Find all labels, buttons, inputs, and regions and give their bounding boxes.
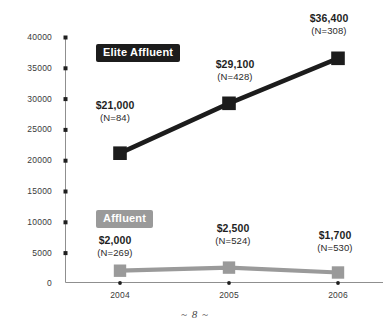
page-number-marker: ~ 8 ~: [0, 308, 390, 320]
y-tick-label-0: 0: [6, 278, 52, 288]
elite-point-label-2006: $36,400 (N=308): [274, 12, 384, 37]
series-affluent: [114, 261, 344, 278]
legend-tag-affluent: Affluent: [96, 210, 153, 228]
x-tick-label-2004: 2004: [90, 290, 150, 300]
y-tick-label-5000: 5000: [6, 248, 52, 258]
affluent-value-2005: $2,500: [178, 222, 288, 235]
x-tick-label-2006: 2006: [308, 290, 368, 300]
affluent-value-2004: $2,000: [60, 234, 170, 247]
elite-marker-2005: [222, 97, 236, 111]
y-tick-label-35000: 35000: [6, 63, 52, 73]
elite-value-2004: $21,000: [60, 99, 170, 112]
affluent-point-label-2004: $2,000 (N=269): [60, 234, 170, 259]
affluent-point-label-2005: $2,500 (N=524): [178, 222, 288, 247]
y-tick-label-25000: 25000: [6, 124, 52, 134]
affluent-point-label-2006: $1,700 (N=530): [280, 229, 390, 254]
elite-count-2004: (N=84): [60, 112, 170, 124]
y-tick-label-10000: 10000: [6, 217, 52, 227]
affluent-count-2006: (N=530): [280, 242, 390, 254]
affluent-count-2004: (N=269): [60, 247, 170, 259]
elite-point-label-2005: $29,100 (N=428): [180, 58, 290, 83]
elite-value-2005: $29,100: [180, 58, 290, 71]
elite-count-2005: (N=428): [180, 71, 290, 83]
elite-count-2006: (N=308): [274, 25, 384, 37]
elite-value-2006: $36,400: [274, 12, 384, 25]
affluent-value-2006: $1,700: [280, 229, 390, 242]
affluent-marker-2006: [332, 266, 344, 278]
line-chart-plot: [0, 0, 390, 330]
elite-point-label-2004: $21,000 (N=84): [60, 99, 170, 124]
x-tick-label-2005: 2005: [199, 290, 259, 300]
chart-figure: 40000 35000 30000 25000 20000 15000 1000…: [0, 0, 390, 330]
legend-tag-elite-affluent: Elite Affluent: [96, 44, 180, 62]
elite-marker-2006: [331, 52, 345, 66]
y-tick-label-40000: 40000: [6, 32, 52, 42]
affluent-marker-2005: [223, 261, 235, 273]
y-tick-label-20000: 20000: [6, 155, 52, 165]
y-tick-label-15000: 15000: [6, 186, 52, 196]
affluent-count-2005: (N=524): [178, 235, 288, 247]
elite-marker-2004: [113, 146, 127, 160]
y-tick-label-30000: 30000: [6, 94, 52, 104]
affluent-marker-2004: [114, 265, 126, 277]
